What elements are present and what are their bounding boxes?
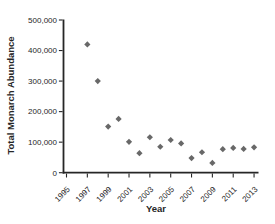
y-tick-label: 500,000	[28, 16, 57, 25]
x-tick-label: 2011	[220, 184, 239, 203]
x-tick-label: 2013	[241, 184, 260, 203]
data-point-2002	[136, 150, 142, 156]
x-tick-label: 1995	[53, 184, 72, 203]
x-tick-label: 2003	[136, 184, 155, 203]
data-point-1999	[105, 123, 111, 129]
y-axis-title: Total Monarch Abundance	[5, 36, 16, 154]
data-point-2001	[126, 139, 132, 145]
chart-canvas: Total Monarch Abundance Year 0100,000200…	[0, 0, 275, 224]
x-tick-label: 2009	[199, 184, 218, 203]
y-tick-label: 400,000	[28, 46, 57, 55]
x-tick-label: 2007	[178, 184, 197, 203]
data-point-2006	[178, 140, 184, 146]
data-point-1997	[84, 41, 90, 47]
data-point-2012	[241, 146, 247, 152]
data-point-1998	[95, 78, 101, 84]
data-point-2010	[220, 146, 226, 152]
data-point-2009	[209, 160, 215, 166]
y-tick-label: 300,000	[28, 77, 57, 86]
y-tick-label: 100,000	[28, 138, 57, 147]
data-point-2000	[116, 116, 122, 122]
x-tick-label: 1999	[95, 184, 114, 203]
x-axis-title: Year	[146, 203, 166, 214]
y-tick-label: 0	[53, 169, 58, 178]
data-point-2008	[199, 149, 205, 155]
data-point-2004	[157, 144, 163, 150]
y-tick-label: 200,000	[28, 107, 57, 116]
data-point-2011	[230, 145, 236, 151]
x-tick-label: 2005	[157, 184, 176, 203]
data-point-2003	[147, 134, 153, 140]
data-point-2007	[188, 155, 194, 161]
x-tick-label: 1997	[74, 184, 93, 203]
data-point-2005	[168, 137, 174, 143]
data-point-2013	[251, 144, 257, 150]
monarch-abundance-chart: Total Monarch Abundance Year 0100,000200…	[0, 0, 275, 224]
x-tick-label: 2001	[115, 184, 134, 203]
